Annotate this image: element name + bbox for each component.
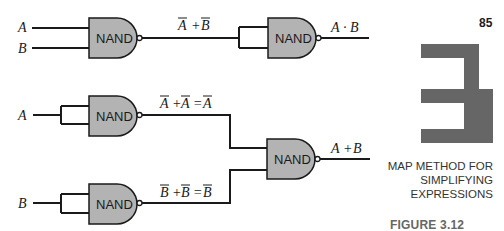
expr-a-and-b: A · B [330, 20, 359, 35]
wire-ga-tied-inputs [61, 106, 89, 124]
inversion-bubble-icon [315, 157, 320, 162]
svg-text:=: = [193, 96, 202, 111]
bottom-circuit: A NAND A + A = A B NAND B [17, 96, 370, 224]
expr-not-a-plus-not-a: A + A = A [159, 96, 212, 111]
input-label-b: B [18, 196, 27, 211]
chapter-title-line: SIMPLIFYING [388, 173, 493, 187]
nand-gate-b: NAND [89, 184, 142, 224]
expr-not-a-plus-not-b: A + B [177, 18, 210, 33]
svg-text:=: = [193, 185, 202, 200]
chapter-title-line: MAP METHOD FOR [388, 159, 493, 173]
svg-text:A: A [177, 18, 187, 33]
nand-gate-top-1: NAND [89, 18, 142, 58]
nand-gate-output: NAND [267, 139, 320, 179]
inversion-bubble-icon [137, 36, 142, 41]
gate-label: NAND [96, 197, 133, 212]
inversion-bubble-icon [137, 113, 142, 118]
wire-g2-tied-inputs [239, 27, 268, 48]
gate-label: NAND [96, 31, 133, 46]
gate-label: NAND [275, 31, 312, 46]
svg-text:B: B [181, 185, 190, 200]
svg-text:A: A [180, 96, 190, 111]
nand-gate-top-2: NAND [268, 18, 321, 58]
expr-a-or-b: A + B [330, 141, 362, 156]
svg-text:B: B [353, 141, 362, 156]
inversion-bubble-icon [316, 36, 321, 41]
chapter-title-line: EXPRESSIONS [388, 187, 493, 201]
input-label-b: B [18, 41, 27, 56]
wire-ga-to-gout [142, 115, 267, 148]
chapter-number-3-icon [421, 44, 493, 143]
svg-text:B: B [201, 18, 210, 33]
inversion-bubble-icon [137, 201, 142, 206]
wire-gb-tied-inputs [61, 194, 89, 213]
svg-text:A: A [330, 141, 340, 156]
page-number: 85 [479, 16, 492, 30]
svg-text:B: B [203, 185, 212, 200]
figure-label: FIGURE 3.12 [390, 218, 464, 231]
svg-text:B: B [350, 20, 359, 35]
chapter-title: MAP METHOD FOR SIMPLIFYING EXPRESSIONS [388, 159, 493, 201]
nand-gate-a: NAND [89, 96, 142, 136]
svg-text:·: · [343, 20, 347, 35]
top-circuit: A B NAND A + B NAND A · [17, 18, 369, 58]
input-label-a: A [17, 20, 27, 35]
expr-not-b-plus-not-b: B + B = B [160, 185, 212, 200]
svg-text:B: B [160, 185, 169, 200]
input-label-a: A [17, 108, 27, 123]
gate-label: NAND [96, 109, 133, 124]
svg-text:+: + [191, 18, 200, 33]
svg-text:A: A [202, 96, 212, 111]
svg-text:+: + [343, 141, 352, 156]
svg-text:A: A [330, 20, 340, 35]
gate-label: NAND [274, 152, 311, 167]
svg-text:A: A [159, 96, 169, 111]
